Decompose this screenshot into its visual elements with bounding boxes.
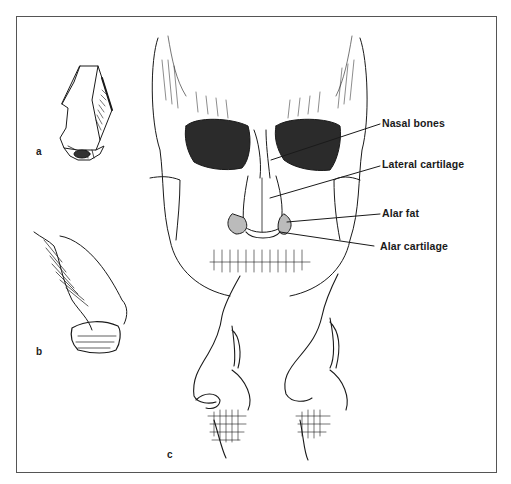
skull-drawing [150, 36, 380, 296]
subfigure-label-a: a [36, 146, 42, 157]
callout-lateral-cartilage: Lateral cartilage [382, 158, 464, 170]
subfigure-label-b: b [36, 346, 42, 357]
subfigure-label-c: c [167, 449, 173, 460]
profile-sketch-left [194, 276, 250, 458]
profile-sketch-right [285, 274, 347, 460]
nose-block-sketch-a [60, 66, 112, 160]
callout-alar-fat: Alar fat [382, 207, 419, 219]
callout-alar-cartilage: Alar cartilage [380, 240, 448, 252]
callout-nasal-bones: Nasal bones [382, 117, 445, 129]
nose-side-sketch-b [34, 232, 127, 353]
